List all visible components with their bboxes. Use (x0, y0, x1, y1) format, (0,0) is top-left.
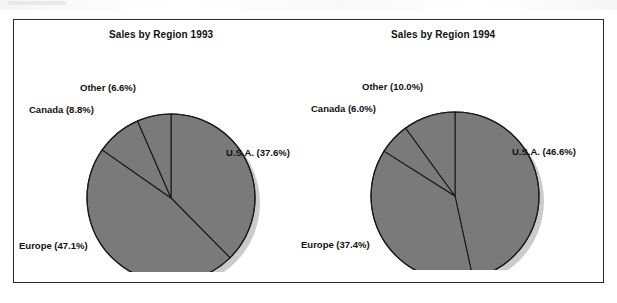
pie-label-europe-1994: Europe (37.4%) (301, 239, 370, 250)
chart-panel-1994: Sales by Region 1994 Other (10.0%) Cana (14, 20, 603, 282)
figure-frame: Sales by Region 1993 Other (13, 19, 604, 283)
pie-svg-1994 (346, 80, 546, 270)
pie-label-usa-1994: U.S.A. (46.6%) (512, 146, 576, 157)
pie-chart-1994[interactable] (346, 80, 546, 270)
pie-label-canada-1994: Canada (6.0%) (311, 103, 376, 114)
pie-label-other-1994: Other (10.0%) (362, 81, 423, 92)
pie-slices-1994 (371, 112, 539, 270)
scan-artifact-strip (0, 0, 617, 10)
chart-title-1994: Sales by Region 1994 (391, 29, 495, 40)
